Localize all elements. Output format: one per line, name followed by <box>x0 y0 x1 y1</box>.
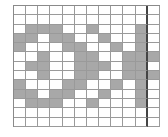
empty-cell <box>26 71 38 80</box>
filled-cell <box>136 62 148 71</box>
empty-cell <box>111 118 123 127</box>
filled-cell <box>99 62 111 71</box>
filled-cell <box>38 62 50 71</box>
filled-cell <box>136 71 148 80</box>
filled-cell <box>75 80 87 89</box>
empty-cell <box>75 99 87 108</box>
empty-cell <box>50 52 62 61</box>
empty-cell <box>111 71 123 80</box>
empty-cell <box>14 15 26 24</box>
empty-cell <box>136 15 148 24</box>
filled-cell <box>123 71 135 80</box>
filled-cell <box>99 34 111 43</box>
empty-cell <box>123 108 135 117</box>
filled-cell <box>50 25 62 34</box>
empty-cell <box>99 6 111 15</box>
empty-cell <box>123 15 135 24</box>
filled-cell <box>123 52 135 61</box>
empty-cell <box>148 34 160 43</box>
empty-cell <box>38 15 50 24</box>
empty-cell <box>148 90 160 99</box>
empty-cell <box>87 34 99 43</box>
filled-cell <box>87 62 99 71</box>
empty-cell <box>123 25 135 34</box>
filled-cell <box>50 99 62 108</box>
empty-cell <box>123 6 135 15</box>
empty-cell <box>50 62 62 71</box>
empty-cell <box>99 15 111 24</box>
empty-cell <box>111 52 123 61</box>
filled-cell <box>63 80 75 89</box>
filled-cell <box>136 90 148 99</box>
filled-cell <box>14 80 26 89</box>
empty-cell <box>99 118 111 127</box>
empty-cell <box>148 43 160 52</box>
empty-cell <box>14 108 26 117</box>
filled-cell <box>26 62 38 71</box>
filled-cell <box>75 71 87 80</box>
empty-cell <box>26 15 38 24</box>
filled-cell <box>99 90 111 99</box>
empty-cell <box>63 99 75 108</box>
filled-cell <box>136 80 148 89</box>
empty-cell <box>123 90 135 99</box>
empty-cell <box>50 118 62 127</box>
empty-cell <box>148 62 160 71</box>
empty-cell <box>50 71 62 80</box>
empty-cell <box>75 108 87 117</box>
filled-cell <box>38 71 50 80</box>
empty-cell <box>123 80 135 89</box>
empty-cell <box>99 108 111 117</box>
empty-cell <box>148 118 160 127</box>
empty-cell <box>38 80 50 89</box>
empty-cell <box>111 99 123 108</box>
filled-cell <box>14 34 26 43</box>
filled-cell <box>136 52 148 61</box>
empty-cell <box>14 6 26 15</box>
filled-cell <box>63 43 75 52</box>
filled-cell <box>148 52 160 61</box>
empty-cell <box>99 99 111 108</box>
filled-cell <box>14 90 26 99</box>
filled-cell <box>136 25 148 34</box>
empty-cell <box>111 90 123 99</box>
empty-cell <box>50 6 62 15</box>
empty-cell <box>99 71 111 80</box>
empty-cell <box>123 118 135 127</box>
empty-cell <box>14 52 26 61</box>
filled-cell <box>148 71 160 80</box>
empty-cell <box>75 90 87 99</box>
empty-cell <box>63 6 75 15</box>
empty-cell <box>148 80 160 89</box>
empty-cell <box>26 52 38 61</box>
empty-cell <box>99 80 111 89</box>
filled-cell <box>38 25 50 34</box>
filled-cell <box>87 71 99 80</box>
empty-cell <box>87 108 99 117</box>
filled-cell <box>87 99 99 108</box>
empty-cell <box>111 34 123 43</box>
empty-cell <box>14 62 26 71</box>
empty-cell <box>148 15 160 24</box>
filled-cell <box>87 52 99 61</box>
filled-cell <box>136 34 148 43</box>
filled-cell <box>87 25 99 34</box>
empty-cell <box>38 118 50 127</box>
pattern-grid <box>13 5 160 127</box>
empty-cell <box>63 118 75 127</box>
filled-cell <box>26 99 38 108</box>
empty-cell <box>38 90 50 99</box>
empty-cell <box>50 43 62 52</box>
empty-cell <box>111 62 123 71</box>
empty-cell <box>111 6 123 15</box>
empty-cell <box>148 99 160 108</box>
filled-cell <box>50 34 62 43</box>
empty-cell <box>14 25 26 34</box>
empty-cell <box>87 90 99 99</box>
empty-cell <box>75 6 87 15</box>
empty-cell <box>50 108 62 117</box>
empty-cell <box>75 34 87 43</box>
empty-cell <box>38 6 50 15</box>
empty-cell <box>75 118 87 127</box>
empty-cell <box>50 15 62 24</box>
